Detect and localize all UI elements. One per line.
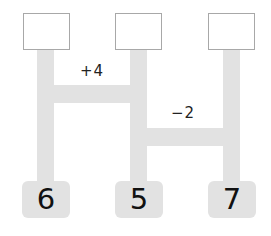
start-number-2: 5	[115, 181, 163, 218]
rung-1-operation: +4	[80, 64, 104, 79]
answer-box-1[interactable]	[23, 13, 70, 50]
rung-1-2	[37, 85, 147, 103]
vertical-bar-1	[37, 49, 54, 184]
rung-2-3	[130, 128, 240, 146]
vertical-bar-2	[130, 49, 147, 184]
answer-box-2[interactable]	[115, 13, 162, 50]
start-number-3: 7	[208, 181, 256, 218]
answer-box-3[interactable]	[208, 13, 255, 50]
start-number-1: 6	[22, 181, 70, 218]
vertical-bar-3	[223, 49, 240, 184]
rung-2-operation: −2	[171, 106, 195, 121]
